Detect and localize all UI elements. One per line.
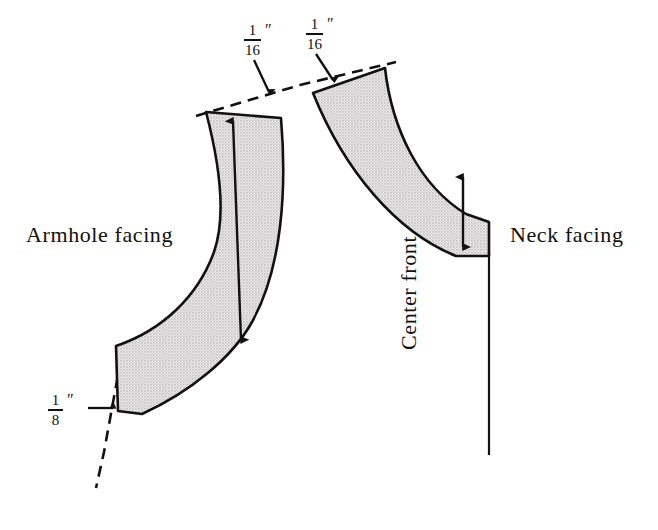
- diagram-canvas: [0, 0, 658, 530]
- fraction-bar: [306, 33, 323, 34]
- fraction-numerator: 1: [248, 22, 258, 38]
- fraction-denominator: 8: [51, 412, 61, 428]
- inch-mark: ″: [265, 22, 272, 38]
- fraction-stack: 1 8: [48, 392, 63, 428]
- armhole-facing-piece: [116, 112, 283, 414]
- leader-arrow-shoulder-right: [316, 54, 333, 80]
- fraction-stack: 1 16: [306, 16, 323, 52]
- fraction-bar: [244, 39, 261, 40]
- center-front-label: Center front: [396, 236, 422, 350]
- inch-mark: ″: [327, 16, 334, 32]
- inch-mark: ″: [67, 392, 74, 408]
- measurement-underarm: 1 8 ″: [48, 392, 74, 428]
- armhole-facing-label: Armhole facing: [26, 222, 173, 248]
- fraction-stack: 1 16: [244, 22, 261, 58]
- fraction-denominator: 16: [306, 36, 323, 52]
- fraction-numerator: 1: [310, 16, 320, 32]
- fraction-numerator: 1: [51, 392, 61, 408]
- facing-diagram: Armhole facing Neck facing Center front …: [0, 0, 658, 530]
- fraction-denominator: 16: [244, 42, 261, 58]
- leader-arrow-shoulder-left: [254, 60, 269, 92]
- neck-facing-label: Neck facing: [510, 222, 624, 248]
- measurement-shoulder-right: 1 16 ″: [306, 16, 334, 52]
- measurement-shoulder-left: 1 16 ″: [244, 22, 272, 58]
- fraction-bar: [48, 409, 63, 410]
